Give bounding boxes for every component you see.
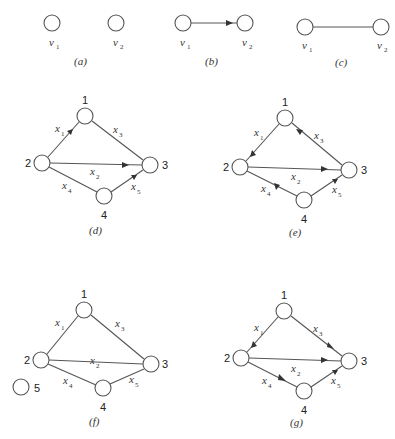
node-3 [143, 356, 159, 372]
node-label-sub: 2 [384, 46, 388, 54]
edge-label-sub: 5 [338, 191, 342, 199]
edge-label: x [253, 321, 259, 333]
caption-e: (e) [289, 226, 302, 239]
node-label: 3 [361, 355, 367, 367]
edge-label-sub: 3 [121, 325, 125, 333]
edge-x4 [247, 171, 297, 196]
node-2 [33, 352, 49, 368]
node-label: v [242, 36, 247, 48]
edge-label: x [54, 316, 60, 328]
node-label-sub: 1 [309, 46, 313, 54]
edge-x4 [248, 362, 297, 387]
arrow-icon [122, 162, 129, 168]
edge-label-sub: 4 [268, 382, 272, 390]
node-label: 3 [162, 358, 168, 370]
caption-c: (c) [335, 56, 348, 69]
node-label: 5 [34, 382, 40, 394]
node-label: 2 [223, 161, 229, 173]
node-label: v [113, 36, 118, 48]
panel-f: 1 2 3 4 5 x1 x3 x2 x4 x5 (f) [13, 288, 168, 428]
node-4 [96, 188, 112, 204]
node-label: 4 [101, 209, 107, 221]
edge-label: x [112, 123, 118, 135]
edge-label-sub: 5 [135, 381, 139, 389]
edge-label: x [89, 165, 95, 177]
node-v1 [297, 19, 313, 35]
edge-label-sub: 4 [68, 187, 72, 195]
edge-label-sub: 5 [337, 382, 341, 390]
node-label-sub: 2 [120, 43, 124, 51]
node-label: 3 [361, 164, 367, 176]
node-label: 4 [100, 401, 106, 413]
node-1 [77, 108, 93, 124]
edge-label: x [312, 322, 318, 334]
edge-label: x [290, 362, 296, 374]
caption-f: (f) [89, 415, 100, 428]
edge-x2 [249, 358, 341, 361]
node-label: v [302, 39, 307, 51]
edge-x1 [48, 122, 79, 157]
panel-c: v 1 v 2 (c) [297, 19, 389, 69]
caption-d: (d) [89, 224, 102, 237]
caption-a: (a) [74, 55, 87, 68]
edge-label-sub: 1 [61, 324, 65, 332]
node-1 [277, 110, 293, 126]
node-3 [341, 353, 357, 369]
node-2 [233, 350, 249, 366]
edge-label: x [54, 122, 60, 134]
node-1 [276, 303, 292, 319]
arrow-icon [278, 374, 286, 381]
node-label: 2 [224, 352, 230, 364]
node-3 [341, 162, 357, 178]
arrow-icon [321, 166, 328, 172]
edge-label-sub: 4 [69, 382, 73, 390]
caption-b: (b) [205, 55, 218, 68]
edge-label: x [290, 170, 296, 182]
edge-label-sub: 2 [297, 370, 301, 378]
edge-label: x [114, 317, 120, 329]
edge-label-sub: 1 [260, 329, 264, 337]
edge-label: x [89, 354, 95, 366]
node-label-sub: 2 [249, 43, 253, 51]
node-label: v [377, 39, 382, 51]
edge-label: x [331, 183, 337, 195]
arrow-icon [327, 342, 334, 349]
caption-g: (g) [290, 416, 303, 429]
edge-label: x [260, 182, 266, 194]
edge-label-sub: 3 [119, 131, 123, 139]
node-4 [95, 380, 111, 396]
panel-e: 1 2 3 4 x1 x3 x2 x4 x5 [223, 96, 367, 225]
node-label: 4 [301, 404, 307, 416]
edge-label-sub: 3 [320, 137, 324, 145]
node-4 [296, 192, 312, 208]
edge-label: x [261, 374, 267, 386]
node-2 [232, 159, 248, 175]
edge-label: x [62, 374, 68, 386]
edge-label-sub: 1 [61, 130, 65, 138]
edge-label-sub: 2 [96, 173, 100, 181]
node-label: v [49, 36, 54, 48]
graph-figure: v 1 v 2 (a) v 1 v 2 (b) v 1 v 2 (c) [0, 0, 395, 439]
node-label: 1 [281, 289, 287, 301]
node-4 [296, 383, 312, 399]
node-label-sub: 1 [187, 43, 191, 51]
edge-x1 [47, 316, 78, 354]
edge-label-sub: 3 [319, 330, 323, 338]
edge-label: x [130, 180, 136, 192]
panel-b: v 1 v 2 (b) [175, 15, 253, 68]
node-2 [34, 155, 50, 171]
edge-label: x [313, 129, 319, 141]
edge-label-sub: 1 [260, 134, 264, 142]
panel-g: 1 2 3 4 x1 x3 x2 x4 x5 (g) [224, 289, 367, 429]
node-label: 1 [282, 96, 288, 108]
edge-label: x [253, 126, 259, 138]
panel-d: 1 2 3 4 x1 x3 x2 x4 x5 (d) [25, 94, 168, 237]
node-label: 1 [82, 94, 88, 106]
panel-a: v 1 v 2 (a) [44, 15, 124, 68]
node-5 [13, 379, 29, 395]
edge-label: x [61, 179, 67, 191]
edge-x5 [110, 369, 144, 384]
node-label: 2 [24, 354, 30, 366]
edge-label-sub: 4 [267, 190, 271, 198]
edge-label: x [330, 374, 336, 386]
